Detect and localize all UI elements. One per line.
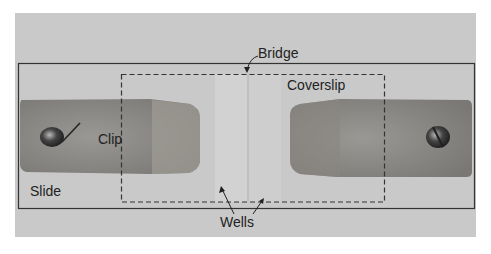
label-coverslip: Coverslip: [287, 78, 345, 92]
wells-arrow-right: [253, 201, 262, 214]
label-bridge: Bridge: [258, 46, 298, 60]
clip-right-bevel: [290, 99, 340, 177]
bridge-arrowhead-icon: [244, 67, 250, 73]
label-slide: Slide: [30, 184, 61, 198]
screw-left-icon: [40, 127, 64, 147]
well-left: [215, 74, 247, 202]
well-right: [249, 74, 281, 202]
label-clip: Clip: [98, 132, 122, 146]
clip-left-bevel: [152, 100, 200, 174]
label-wells: Wells: [220, 215, 254, 229]
